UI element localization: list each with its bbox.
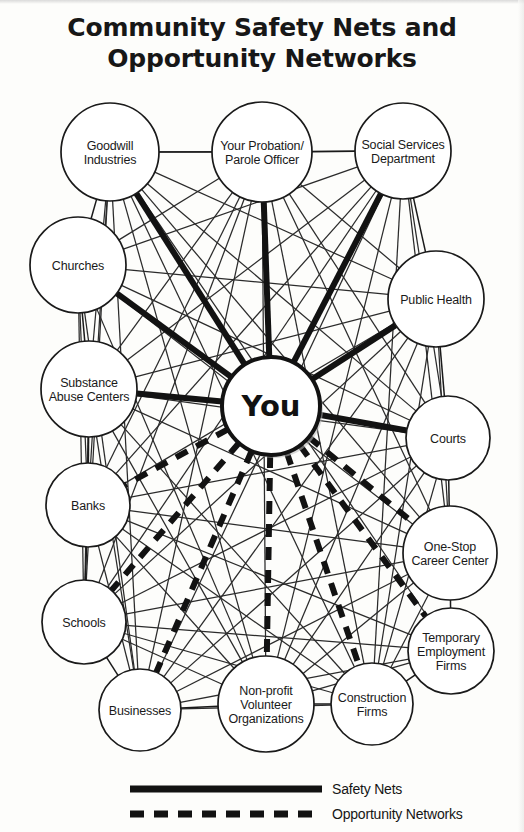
safety-net-edge-social <box>294 194 381 363</box>
node-label: Construction <box>338 691 407 705</box>
node-label: Temporary <box>422 631 481 645</box>
ring-edge-temporary-construction <box>406 675 415 681</box>
opportunity-edge-nonprofit <box>267 455 270 656</box>
node-businesses[interactable]: Businesses <box>99 669 181 751</box>
node-label: You <box>241 389 301 423</box>
mesh-edge-goodwill-onestop <box>142 189 420 517</box>
node-label: Parole Officer <box>225 153 299 167</box>
node-onestop[interactable]: One-StopCareer Center <box>403 506 497 600</box>
ring-edge-schools-businesses <box>107 657 118 675</box>
ring-edge-social-publichealth <box>413 198 425 252</box>
network-diagram: GoodwillIndustriesYour Probation/Parole … <box>0 0 524 832</box>
ring-edge-churches-substance <box>82 313 85 341</box>
node-churches[interactable]: Churches <box>30 217 126 313</box>
mesh-edge-substance-construction <box>121 425 345 674</box>
mesh-edge-social-substance <box>127 180 364 360</box>
node-label: Employment <box>417 645 486 659</box>
legend-item-opportunity-networks: Opportunity Networks <box>130 806 463 822</box>
legend: Safety NetsOpportunity Networks <box>130 781 463 822</box>
node-label: Firms <box>436 659 467 673</box>
node-label: Department <box>371 152 435 166</box>
mesh-edge-publichealth-construction <box>378 346 428 663</box>
node-probation[interactable]: Your Probation/Parole Officer <box>212 102 312 202</box>
legend-label: Opportunity Networks <box>332 806 463 822</box>
legend-label: Safety Nets <box>332 781 402 797</box>
node-label: Banks <box>71 499 105 513</box>
node-label: Substance <box>60 376 118 390</box>
node-label: Volunteer <box>240 698 291 712</box>
opportunity-edge-construction <box>287 452 359 665</box>
node-label: Abuse Centers <box>49 390 130 404</box>
node-social[interactable]: Social ServicesDepartment <box>355 103 451 199</box>
node-you[interactable]: You <box>222 357 323 458</box>
node-label: Goodwill <box>87 139 134 153</box>
legend-item-safety-nets: Safety Nets <box>130 781 402 797</box>
mesh-edge-churches-publichealth <box>126 270 388 295</box>
opportunity-edge-onestop <box>309 437 414 523</box>
node-construction[interactable]: ConstructionFirms <box>331 663 413 745</box>
ring-edge-goodwill-churches <box>91 199 97 219</box>
node-substance[interactable]: SubstanceAbuse Centers <box>41 341 137 437</box>
opportunity-edge-banks <box>125 429 228 485</box>
node-temporary[interactable]: TemporaryEmploymentFirms <box>408 608 494 694</box>
node-label: Courts <box>430 432 466 446</box>
node-publichealth[interactable]: Public Health <box>388 251 484 347</box>
node-label: One-Stop <box>424 540 477 554</box>
node-schools[interactable]: Schools <box>42 580 126 664</box>
node-label: Non-profit <box>239 684 293 698</box>
diagram-page: Community Safety Nets and Opportunity Ne… <box>0 0 524 832</box>
node-layer: GoodwillIndustriesYour Probation/Parole … <box>30 102 497 752</box>
safety-net-edge-churches <box>117 293 232 377</box>
node-label: Career Center <box>411 554 488 568</box>
mesh-edge-banks-construction <box>122 529 338 680</box>
node-goodwill[interactable]: GoodwillIndustries <box>61 103 159 201</box>
opportunity-edge-layer <box>111 429 425 672</box>
node-label: Schools <box>62 616 105 630</box>
node-courts[interactable]: Courts <box>406 396 490 480</box>
node-label: Your Probation/ <box>220 139 304 153</box>
node-label: Public Health <box>400 293 472 307</box>
mesh-edge-probation-substance <box>117 192 232 350</box>
node-label: Social Services <box>361 138 444 152</box>
node-label: Organizations <box>228 712 303 726</box>
node-banks[interactable]: Banks <box>46 463 130 547</box>
node-label: Industries <box>84 153 137 167</box>
node-nonprofit[interactable]: Non-profitVolunteerOrganizations <box>218 656 314 752</box>
opportunity-edge-schools <box>111 443 238 590</box>
node-label: Businesses <box>109 704 171 718</box>
node-label: Firms <box>357 705 388 719</box>
node-label: Churches <box>52 259 104 273</box>
